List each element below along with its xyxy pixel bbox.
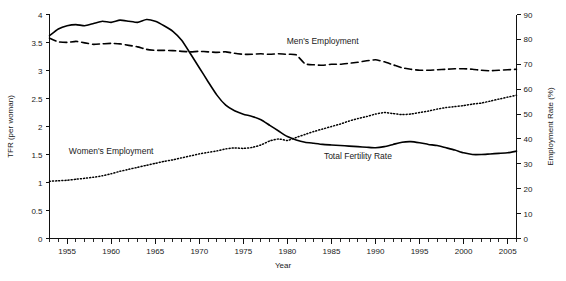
x-tick-label-2000: 2000 bbox=[455, 247, 473, 256]
x-tick-label-1955: 1955 bbox=[58, 247, 76, 256]
left-tick-label-3.5: 3.5 bbox=[31, 39, 43, 48]
x-tick-label-1980: 1980 bbox=[279, 247, 297, 256]
right-tick-label-50: 50 bbox=[524, 110, 533, 119]
left-axis-ticks: 00.511.522.533.54 bbox=[31, 11, 49, 244]
series-layer bbox=[50, 20, 517, 182]
left-tick-label-2.5: 2.5 bbox=[31, 95, 43, 104]
left-tick-label-2: 2 bbox=[38, 123, 43, 132]
x-tick-label-1995: 1995 bbox=[411, 247, 429, 256]
x-axis-major-ticks: 1955196019651970197519801985199019952000… bbox=[58, 239, 517, 256]
x-tick-label-1970: 1970 bbox=[190, 247, 208, 256]
y-axis-title: TFR (per woman) bbox=[6, 95, 15, 158]
chart-container: 00.511.522.533.54 0102030405060708090 19… bbox=[0, 0, 566, 281]
left-tick-label-4: 4 bbox=[38, 11, 43, 20]
right-tick-label-80: 80 bbox=[524, 35, 533, 44]
right-tick-label-20: 20 bbox=[524, 185, 533, 194]
chart-svg: 00.511.522.533.54 0102030405060708090 19… bbox=[0, 0, 566, 281]
right-tick-label-40: 40 bbox=[524, 135, 533, 144]
x-tick-label-2005: 2005 bbox=[499, 247, 517, 256]
series-annotation-womens-employment: Women's Employment bbox=[69, 146, 154, 156]
left-tick-label-1: 1 bbox=[38, 179, 43, 188]
x-tick-label-1975: 1975 bbox=[234, 247, 252, 256]
left-tick-label-0.5: 0.5 bbox=[31, 207, 43, 216]
right-tick-label-70: 70 bbox=[524, 60, 533, 69]
series-annotation-mens-employment: Men's Employment bbox=[287, 36, 360, 46]
series-annotation-total-fertility-rate: Total Fertility Rate bbox=[324, 151, 392, 161]
right-tick-label-90: 90 bbox=[524, 11, 533, 20]
right-axis-ticks: 0102030405060708090 bbox=[517, 11, 533, 244]
left-tick-label-0: 0 bbox=[38, 235, 43, 244]
x-tick-label-1960: 1960 bbox=[102, 247, 120, 256]
x-tick-label-1965: 1965 bbox=[146, 247, 164, 256]
series-line-mens-employment bbox=[50, 38, 517, 71]
right-tick-label-60: 60 bbox=[524, 85, 533, 94]
x-tick-label-1990: 1990 bbox=[367, 247, 385, 256]
x-axis-title: Year bbox=[275, 261, 292, 270]
series-line-womens-employment bbox=[50, 95, 517, 181]
left-tick-label-3: 3 bbox=[38, 67, 43, 76]
axis-titles: Year TFR (per woman) Employment Rate (%) bbox=[6, 87, 555, 269]
right-tick-label-0: 0 bbox=[524, 235, 529, 244]
annotation-layer: Men's Employment Women's Employment Tota… bbox=[69, 36, 392, 161]
x-tick-label-1985: 1985 bbox=[323, 247, 341, 256]
right-tick-label-10: 10 bbox=[524, 210, 533, 219]
right-tick-label-30: 30 bbox=[524, 160, 533, 169]
left-tick-label-1.5: 1.5 bbox=[31, 151, 43, 160]
series-line-total-fertility-rate bbox=[50, 20, 517, 155]
plot-frame bbox=[50, 15, 517, 239]
y2-axis-title: Employment Rate (%) bbox=[546, 87, 555, 166]
